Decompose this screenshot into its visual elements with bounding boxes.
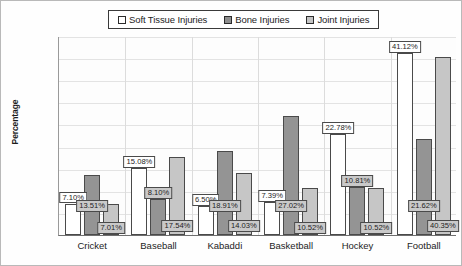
plot-area: 0.00%5.00%10.00%15.00%20.00%25.00%30.00%… [58,37,456,236]
bar-value-label: 27.02% [275,200,307,212]
legend-swatch-icon [118,16,126,24]
bar[interactable]: 10.52% [302,188,318,235]
legend-label: Bone Injuries [235,14,289,25]
bar-group: 6.50%18.91%14.03% [192,37,258,235]
bar-value-label: 10.52% [361,222,393,234]
bar-value-label: 40.35% [427,220,459,232]
bar-value-label: 10.52% [294,222,326,234]
x-axis-category-label: Baseball [140,240,176,251]
x-axis-category-label: Kabaddi [207,240,242,251]
bar-group: 15.08%8.10%17.54% [125,37,191,235]
bar-value-label: 8.10% [145,187,173,199]
bar-value-label: 10.81% [342,175,374,187]
bar-value-label: 22.78% [323,122,355,134]
bar-value-label: 21.62% [408,200,440,212]
chart-legend: Soft Tissue Injuries Bone Injuries Joint… [108,10,379,29]
bar-value-label: 15.08% [124,156,156,168]
bar-group: 41.12%21.62%40.35% [391,37,457,235]
y-axis-title: Percentage [10,87,20,157]
bar[interactable]: 10.52% [368,188,384,235]
bar-value-label: 14.03% [228,220,260,232]
legend-swatch-icon [306,16,314,24]
bar-value-label: 17.54% [162,220,194,232]
legend-item-joint-injuries: Joint Injuries [306,14,369,25]
bar[interactable]: 27.02% [283,116,299,235]
bar[interactable]: 15.08% [131,168,147,235]
x-axis-category-label: Basketball [269,240,313,251]
bar-group: 7.39%27.02%10.52% [258,37,324,235]
bar-value-label: 18.91% [209,200,241,212]
legend-swatch-icon [224,16,232,24]
bar-group: 7.10%13.51%7.01% [59,37,125,235]
chart-container: Soft Tissue Injuries Bone Injuries Joint… [0,0,462,266]
legend-item-soft-tissue-injuries: Soft Tissue Injuries [118,14,207,25]
legend-label: Soft Tissue Injuries [129,14,207,25]
bar-value-label: 41.12% [389,41,421,53]
x-axis-category-label: Football [407,240,441,251]
bar-value-label: 7.01% [97,222,125,234]
x-axis-category-label: Hockey [342,240,374,251]
bar-value-label: 13.51% [76,200,108,212]
bar-group: 22.78%10.81%10.52% [324,37,390,235]
x-axis-category-label: Cricket [77,240,107,251]
legend-label: Joint Injuries [317,14,369,25]
legend-item-bone-injuries: Bone Injuries [224,14,289,25]
